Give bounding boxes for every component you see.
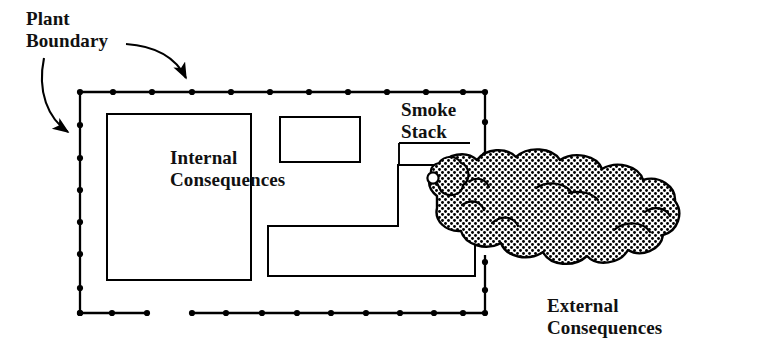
label-internal-consequences-line1: Internal [170,147,285,169]
label-external-consequences-line2: Consequences [547,317,662,339]
boundary-arrow-to-left-fence [42,58,68,132]
label-smoke-stack-line1: Smoke [401,99,456,121]
label-internal-consequences-line2: Consequences [170,169,285,191]
label-external-consequences-line1: External [547,295,662,317]
label-smoke-stack: Smoke Stack [401,99,456,144]
label-plant-boundary: Plant Boundary [26,8,108,53]
label-plant-boundary-line1: Plant [26,8,108,30]
smoke-plume [429,149,679,263]
label-internal-consequences: Internal Consequences [170,147,285,192]
label-plant-boundary-line2: Boundary [26,30,108,52]
plant-boundary-diagram: Plant Boundary Smoke Stack Internal Cons… [0,0,779,362]
boundary-arrow-to-top-fence [126,44,186,78]
internal-building-small [280,117,360,162]
label-external-consequences: External Consequences [547,295,662,340]
label-smoke-stack-line2: Stack [401,121,456,143]
smoke-stack-opening [427,172,438,183]
internal-building-large [107,114,251,280]
